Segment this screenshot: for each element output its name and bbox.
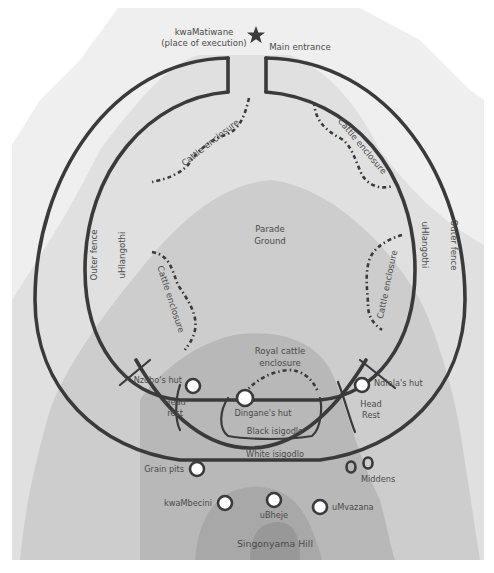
homestead-map: kwaMatiwane (place of execution) Main en…	[0, 0, 494, 573]
outer-fence-left-label: Outer fence	[89, 230, 99, 281]
black-isigodlo-label: Black isigodlo	[247, 426, 303, 436]
parade-ground-label-1: Parade	[255, 224, 285, 234]
middens-label: Middens	[361, 474, 395, 484]
head-rest-left-label-2: rest	[167, 408, 183, 418]
umvazana-hut	[313, 500, 327, 514]
royal-enclosure-label-2: enclosure	[259, 358, 301, 368]
head-rest-left-label-1: Head	[164, 397, 185, 407]
white-isigodlo-label: White isigodlo	[246, 449, 304, 459]
inner-fence-left-label: uHlangothi	[117, 232, 127, 279]
nzobo-hut	[186, 379, 200, 393]
ubheje-hut	[267, 493, 281, 507]
kwambecini-hut	[218, 496, 232, 510]
ndlela-hut-label: Ndlela's hut	[374, 378, 423, 388]
umvazana-label: uMvazana	[332, 502, 374, 512]
head-rest-right-label-2: Rest	[362, 410, 381, 420]
inner-fence-right-label: uHlangothi	[420, 222, 430, 269]
execution-place-label-2: (place of execution)	[161, 38, 246, 48]
parade-ground-label-2: Ground	[254, 236, 286, 246]
dingane-hut	[237, 390, 253, 406]
head-rest-right-label-1: Head	[360, 399, 381, 409]
nzobo-hut-label: Nzobo's hut	[134, 375, 183, 385]
execution-place-label-1: kwaMatiwane	[175, 27, 234, 37]
royal-enclosure-label-1: Royal cattle	[255, 346, 306, 356]
grain-pits	[190, 462, 204, 476]
grain-pits-label: Grain pits	[144, 464, 184, 474]
dingane-hut-label: Dingane's hut	[235, 408, 293, 418]
ubheje-label: uBheje	[260, 510, 288, 520]
kwambecini-label: kwaMbecini	[164, 498, 212, 508]
main-entrance-label: Main entrance	[269, 42, 331, 52]
outer-fence-right-label: Outer fence	[449, 220, 459, 271]
ndlela-hut	[355, 378, 369, 392]
hill-label: Singonyama Hill	[237, 538, 313, 549]
